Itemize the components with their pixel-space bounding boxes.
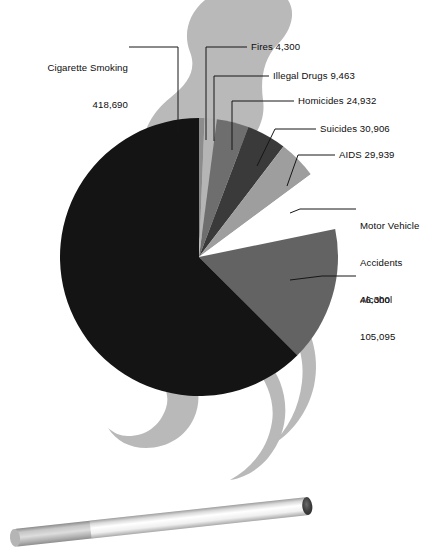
cigarette-filter [14, 520, 93, 546]
label-homicides: Homicides 24,932 [298, 95, 376, 107]
label-aids: AIDS 29,939 [339, 149, 395, 161]
label-alcohol-value: 105,095 [360, 331, 430, 343]
pie-chart-figure: Cigarette Smoking 418,690 Fires 4,300 Il… [0, 0, 436, 556]
label-motor-vehicle-name: Motor Vehicle [360, 220, 434, 232]
label-motor-vehicle-name2: Accidents [360, 257, 434, 269]
label-suicides: Suicides 30,906 [320, 123, 390, 135]
label-fires: Fires 4,300 [251, 41, 300, 53]
label-alcohol-name: Alcohol [360, 294, 430, 306]
label-cigarette-smoking: Cigarette Smoking 418,690 [10, 38, 128, 136]
label-illegal-drugs: Illegal Drugs 9,463 [273, 70, 355, 82]
cigarette-paper [90, 497, 309, 538]
label-cigarette-smoking-value: 418,690 [10, 99, 128, 111]
cigarette-body-group [9, 497, 313, 548]
label-cigarette-smoking-name: Cigarette Smoking [10, 62, 128, 74]
label-alcohol: Alcohol 105,095 [360, 270, 430, 368]
